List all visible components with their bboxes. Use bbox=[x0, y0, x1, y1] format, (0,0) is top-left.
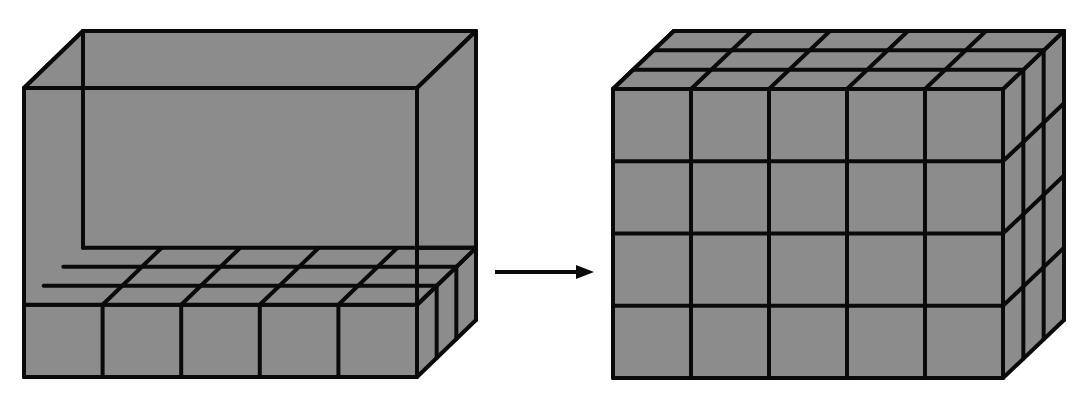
cube-layer-top bbox=[613, 31, 1064, 89]
transition-arrow-icon bbox=[495, 265, 594, 279]
left-box-one-layer bbox=[24, 31, 476, 377]
cube-stack-front bbox=[24, 305, 417, 377]
cube-volume-diagram bbox=[0, 0, 1074, 397]
arrow-head-icon bbox=[576, 265, 594, 279]
top-face bbox=[24, 31, 476, 88]
right-box-filled bbox=[613, 31, 1064, 378]
